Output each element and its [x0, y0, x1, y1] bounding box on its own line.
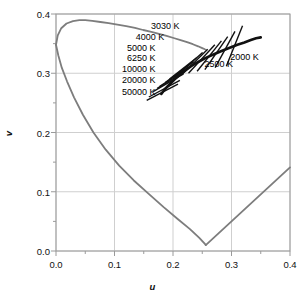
- temperature-label: 2500 K: [205, 59, 234, 69]
- temperature-label: 50000 K: [122, 87, 156, 97]
- x-tick-label: 0.2: [166, 259, 179, 270]
- x-tick-label: 0.4: [283, 259, 296, 270]
- x-tick-label: 0.3: [225, 259, 238, 270]
- y-axis-title: v: [3, 131, 14, 136]
- y-tick-label: 0.3: [22, 68, 50, 79]
- y-tick-label: 0.1: [22, 186, 50, 197]
- x-axis-title: u: [0, 281, 305, 292]
- temperature-label: 4000 K: [136, 32, 165, 42]
- y-tick-label: 0.2: [22, 127, 50, 138]
- temperature-label: 20000 K: [122, 75, 156, 85]
- x-tick-label: 0.0: [49, 259, 62, 270]
- x-tick-label: 0.1: [108, 259, 121, 270]
- temperature-label: 5000 K: [127, 43, 156, 53]
- temperature-label: 6250 K: [127, 53, 156, 63]
- temperature-label: 10000 K: [122, 64, 156, 74]
- minor-tick-marks: [51, 14, 290, 256]
- temperature-label: 2000 K: [230, 52, 259, 62]
- y-tick-label: 0.0: [22, 246, 50, 257]
- y-tick-label: 0.4: [22, 9, 50, 20]
- chromaticity-diagram-figure: 0.00.10.20.30.4 0.00.10.20.30.4 50000 K2…: [0, 0, 305, 303]
- temperature-label: 3030 K: [151, 21, 180, 31]
